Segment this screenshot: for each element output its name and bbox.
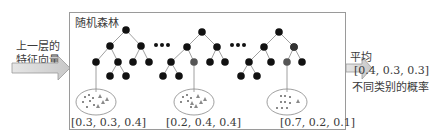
output-vector: [0.4, 0.3, 0.3] xyxy=(354,64,429,77)
tree-2-probabilities: [0.2, 0.4, 0.4] xyxy=(166,116,241,129)
output-caption: 不同类别的概率 xyxy=(352,78,429,94)
tree-3-probabilities: [0.7, 0.2, 0.1] xyxy=(280,116,355,129)
tree-1-probabilities: [0.3, 0.3, 0.4] xyxy=(71,116,146,129)
average-label: 平均 xyxy=(350,48,372,64)
